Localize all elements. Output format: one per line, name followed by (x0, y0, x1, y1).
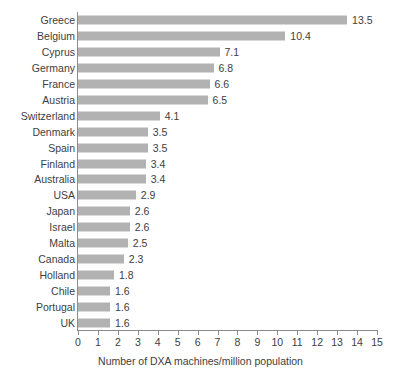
bar (78, 63, 214, 72)
x-axis-title: Number of DXA machines/million populatio… (0, 356, 401, 367)
category-label: Finland (41, 158, 75, 169)
bar-value-label: 2.3 (129, 254, 144, 265)
x-axis-tick-label: 8 (235, 337, 241, 348)
bar-row: Canada2.3 (0, 251, 401, 267)
bar-row: Malta2.5 (0, 235, 401, 251)
bar (78, 79, 210, 88)
bar-value-label: 6.6 (215, 79, 230, 90)
x-axis-tick-label: 14 (351, 337, 363, 348)
bar-row: Spain3.5 (0, 140, 401, 156)
bar-row: UK1.6 (0, 315, 401, 331)
bar (78, 271, 114, 280)
x-axis-tick-label: 1 (95, 337, 101, 348)
category-label: Belgium (37, 31, 75, 42)
category-label: Australia (34, 174, 75, 185)
bar-row: France6.6 (0, 76, 401, 92)
bar-value-label: 1.6 (115, 286, 130, 297)
bar (78, 47, 220, 56)
bar-value-label: 6.5 (213, 94, 228, 105)
bar-value-label: 2.5 (133, 238, 148, 249)
bar-value-label: 6.8 (219, 63, 234, 74)
category-label: USA (53, 190, 75, 201)
bar-row: Switzerland4.1 (0, 108, 401, 124)
category-label: Japan (46, 206, 75, 217)
bar-value-label: 13.5 (352, 15, 372, 26)
x-axis-tick (257, 331, 258, 335)
x-axis-tick-label: 3 (135, 337, 141, 348)
bar-value-label: 3.5 (153, 142, 168, 153)
x-axis-tick (158, 331, 159, 335)
x-axis-tick (98, 331, 99, 335)
bar-row: Israel2.6 (0, 219, 401, 235)
bar (78, 111, 160, 120)
category-label: Holland (39, 270, 75, 281)
bar-value-label: 1.6 (115, 302, 130, 313)
bar-value-label: 7.1 (225, 47, 240, 58)
bar-row: Austria6.5 (0, 92, 401, 108)
bar-value-label: 3.5 (153, 126, 168, 137)
x-axis-tick-label: 6 (195, 337, 201, 348)
bar-value-label: 4.1 (165, 110, 180, 121)
x-axis-tick (317, 331, 318, 335)
x-axis-tick-label: 15 (371, 337, 383, 348)
bar (78, 303, 110, 312)
bar-value-label: 2.9 (141, 190, 156, 201)
bar-row: Australia3.4 (0, 172, 401, 188)
bar (78, 15, 347, 24)
x-axis-tick-label: 10 (271, 337, 283, 348)
bar (78, 31, 285, 40)
category-label: Chile (51, 286, 75, 297)
x-axis-tick (297, 331, 298, 335)
bar (78, 127, 148, 136)
bar (78, 287, 110, 296)
bar-row: Denmark3.5 (0, 124, 401, 140)
x-axis-tick (277, 331, 278, 335)
x-axis-tick (377, 331, 378, 335)
x-axis-tick (118, 331, 119, 335)
x-axis-line (77, 330, 378, 331)
bar-row: Cyprus7.1 (0, 44, 401, 60)
bar (78, 159, 146, 168)
bar (78, 175, 146, 184)
bar-value-label: 2.6 (135, 206, 150, 217)
bar (78, 207, 130, 216)
bar-value-label: 1.6 (115, 318, 130, 329)
x-axis-tick (78, 331, 79, 335)
bar (78, 255, 124, 264)
category-label: Canada (38, 254, 75, 265)
bar (78, 95, 208, 104)
bar (78, 319, 110, 328)
bar (78, 191, 136, 200)
bar-row: Portugal1.6 (0, 299, 401, 315)
bar-value-label: 10.4 (290, 31, 310, 42)
x-axis-tick-label: 12 (311, 337, 323, 348)
category-label: Switzerland (21, 110, 75, 121)
category-label: Austria (42, 94, 75, 105)
bar-value-label: 1.8 (119, 270, 134, 281)
x-axis-tick-label: 7 (215, 337, 221, 348)
x-axis-tick-label: 13 (331, 337, 343, 348)
dxa-machines-bar-chart: Greece13.5Belgium10.4Cyprus7.1Germany6.8… (0, 0, 401, 375)
category-label: Denmark (32, 126, 75, 137)
bar-row: Holland1.8 (0, 267, 401, 283)
bar-row: Greece13.5 (0, 12, 401, 28)
bar-row: Finland3.4 (0, 156, 401, 172)
category-label: Portugal (36, 302, 75, 313)
x-axis-tick-label: 2 (115, 337, 121, 348)
bar-value-label: 3.4 (151, 158, 166, 169)
x-axis-tick-label: 4 (155, 337, 161, 348)
bar (78, 223, 130, 232)
plot-area: Greece13.5Belgium10.4Cyprus7.1Germany6.8… (0, 0, 401, 340)
x-axis-tick (138, 331, 139, 335)
bar (78, 143, 148, 152)
bar-row: Belgium10.4 (0, 28, 401, 44)
x-axis-tick (337, 331, 338, 335)
x-axis-tick (357, 331, 358, 335)
x-axis-tick (218, 331, 219, 335)
bar-row: Japan2.6 (0, 203, 401, 219)
x-axis-tick (237, 331, 238, 335)
bar-row: Germany6.8 (0, 60, 401, 76)
category-label: Spain (48, 142, 75, 153)
category-label: Greece (41, 15, 75, 26)
bar (78, 239, 128, 248)
